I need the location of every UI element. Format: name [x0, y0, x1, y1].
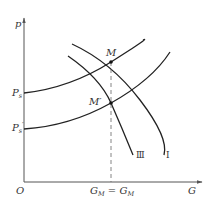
curve-I	[72, 44, 165, 155]
curve-I-label: Ⅰ	[166, 150, 170, 160]
y-axis-label: p	[15, 18, 22, 29]
economic-equilibrium-diagram: p G O Ps Ps′ M M′ Ⅲ Ⅰ GM = GM	[0, 0, 207, 210]
origin-label: O	[16, 185, 24, 196]
lower-rising-curve	[24, 52, 170, 129]
point-M-prime-label: M′	[88, 96, 102, 107]
point-M	[109, 60, 113, 64]
upper-rising-curve	[24, 39, 145, 93]
ps-prime-label: Ps′	[11, 121, 24, 135]
x-axis-label: G	[188, 185, 196, 196]
gm-equals-label: GM = GM	[90, 185, 134, 198]
ps-label: Ps	[11, 87, 23, 100]
curve-III-label: Ⅲ	[136, 150, 145, 160]
point-M-prime	[109, 101, 113, 105]
point-M-label: M	[105, 47, 117, 58]
